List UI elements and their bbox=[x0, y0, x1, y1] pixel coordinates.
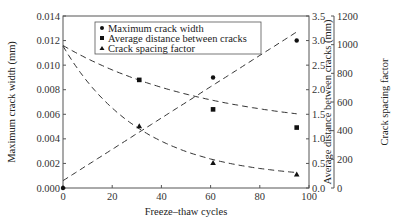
square-marker-icon bbox=[100, 36, 104, 40]
svg-text:20: 20 bbox=[107, 191, 118, 202]
svg-text:0: 0 bbox=[337, 183, 342, 194]
svg-text:0.012: 0.012 bbox=[36, 35, 60, 46]
svg-text:0.010: 0.010 bbox=[36, 60, 60, 71]
outer-right-y-axis: 020040060080010001200 bbox=[331, 11, 358, 194]
svg-text:1000: 1000 bbox=[337, 39, 358, 50]
svg-text:800: 800 bbox=[337, 68, 353, 79]
svg-text:0.014: 0.014 bbox=[36, 11, 60, 22]
svg-text:600: 600 bbox=[337, 97, 353, 108]
svg-text:200: 200 bbox=[337, 154, 353, 165]
svg-text:0.004: 0.004 bbox=[36, 133, 60, 144]
svg-text:40: 40 bbox=[156, 191, 167, 202]
outer-axis-label: Crack spacing factor bbox=[379, 58, 390, 145]
circle-marker-icon bbox=[100, 26, 104, 30]
left-y-axis: 0.0000.0020.0040.0060.0080.0100.0120.014 bbox=[36, 11, 66, 194]
svg-text:0.002: 0.002 bbox=[36, 158, 60, 169]
legend: Maximum crack width Average distance bet… bbox=[95, 22, 261, 54]
chart: 0.0000.0020.0040.0060.0080.0100.0120.014… bbox=[0, 0, 402, 222]
svg-text:1200: 1200 bbox=[337, 11, 358, 22]
svg-text:0.006: 0.006 bbox=[36, 109, 60, 120]
svg-text:100: 100 bbox=[301, 191, 317, 202]
svg-text:0.000: 0.000 bbox=[36, 183, 60, 194]
svg-text:400: 400 bbox=[337, 125, 353, 136]
legend-item: Crack spacing factor bbox=[108, 43, 195, 54]
right-axis-label: Average distance between cracks (mm) bbox=[322, 19, 334, 184]
svg-text:0.008: 0.008 bbox=[36, 84, 60, 95]
svg-text:80: 80 bbox=[255, 191, 266, 202]
x-axis-label: Freeze–thaw cycles bbox=[145, 206, 228, 217]
data-points bbox=[61, 38, 300, 190]
svg-text:0: 0 bbox=[60, 191, 65, 202]
svg-text:60: 60 bbox=[205, 191, 216, 202]
left-axis-label: Maximum crack width (mm) bbox=[6, 41, 18, 163]
